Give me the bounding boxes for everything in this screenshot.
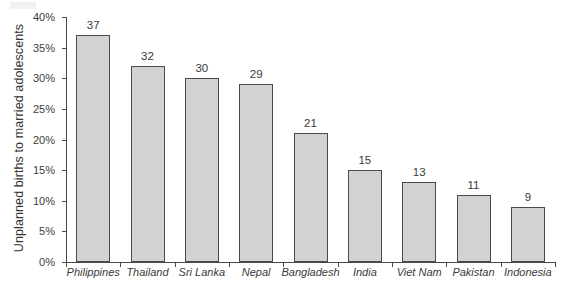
bar (185, 78, 219, 262)
bar (511, 207, 545, 262)
x-axis-tick (120, 262, 121, 267)
y-axis-tick-label: 0% (39, 256, 55, 268)
bar (239, 84, 273, 262)
x-axis-category-label: Bangladesh (281, 266, 339, 278)
bar (131, 66, 165, 262)
y-axis-tick-label: 25% (33, 103, 55, 115)
x-axis-category-label: India (353, 266, 377, 278)
bar-value-label: 30 (195, 62, 208, 74)
x-axis-line (66, 262, 555, 263)
y-axis-title: Unplanned births to married adolescents (12, 13, 26, 263)
y-axis-tick-label: 20% (33, 134, 55, 146)
plot-area: 0%5%10%15%20%25%30%35%40% 37323029211513… (66, 17, 555, 262)
bar-value-label: 29 (250, 68, 263, 80)
y-axis-tick: 5% (62, 231, 66, 232)
bar (457, 195, 491, 262)
bar-value-label: 13 (413, 166, 426, 178)
bar (348, 170, 382, 262)
y-axis-tick: 10% (62, 201, 66, 202)
x-axis-tick (501, 262, 502, 267)
scan-artifact (10, 2, 36, 9)
x-axis-category-label: Viet Nam (397, 266, 442, 278)
bar-chart: Unplanned births to married adolescents … (0, 0, 571, 299)
x-axis-category-label: Nepal (242, 266, 271, 278)
x-axis-category-label: Indonesia (504, 266, 552, 278)
y-axis-tick-label: 30% (33, 72, 55, 84)
x-axis-category-label: Philippines (67, 266, 120, 278)
y-axis-tick-label: 10% (33, 195, 55, 207)
x-axis-tick (555, 262, 556, 267)
y-axis-tick: 40% (62, 17, 66, 18)
bar-value-label: 15 (358, 154, 371, 166)
bar-value-label: 32 (141, 50, 154, 62)
x-axis-category-label: Pakistan (452, 266, 494, 278)
y-axis-tick-label: 15% (33, 164, 55, 176)
y-axis-tick-label: 5% (39, 225, 55, 237)
bar (76, 35, 110, 262)
y-axis-tick: 20% (62, 140, 66, 141)
x-axis-category-label: Thailand (126, 266, 168, 278)
x-axis-tick (446, 262, 447, 267)
y-axis-tick: 25% (62, 109, 66, 110)
x-axis-tick (175, 262, 176, 267)
y-axis-tick: 35% (62, 48, 66, 49)
bar-value-label: 11 (468, 179, 480, 191)
x-axis-tick (392, 262, 393, 267)
y-axis-tick: 30% (62, 78, 66, 79)
y-axis-tick: 15% (62, 170, 66, 171)
y-axis-tick-label: 40% (33, 11, 55, 23)
bar-value-label: 9 (525, 191, 531, 203)
y-axis-tick-label: 35% (33, 42, 55, 54)
bar (294, 133, 328, 262)
y-axis-line (66, 17, 67, 262)
bar (402, 182, 436, 262)
bar-value-label: 21 (304, 117, 317, 129)
x-axis-category-label: Sri Lanka (179, 266, 225, 278)
bar-value-label: 37 (87, 19, 100, 31)
x-axis-tick (229, 262, 230, 267)
